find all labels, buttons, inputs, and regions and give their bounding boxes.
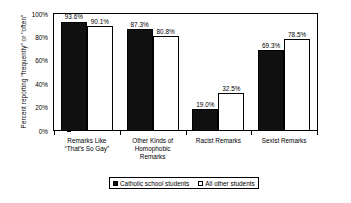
y-tick-label: 20%	[20, 104, 48, 111]
bar-value-label: 80.8%	[149, 28, 183, 35]
y-tick-label: 60%	[20, 57, 48, 64]
bars-layer	[54, 14, 317, 131]
x-category-label: Sexist Remarks	[245, 137, 323, 145]
y-tick-label: 40%	[20, 81, 48, 88]
y-tick-label: 0%	[20, 128, 48, 135]
legend-swatch-dark-icon	[113, 181, 118, 186]
bar-value-label: 69.3%	[254, 42, 288, 49]
legend-item-catholic-school-students: Catholic school students	[113, 180, 189, 187]
y-axis-ticks: 100%80%60%40%20%0%	[18, 0, 48, 203]
legend-item-all-other-students: All other students	[198, 180, 254, 187]
bar-value-label: 32.5%	[214, 85, 248, 92]
y-tick-mark	[67, 131, 71, 132]
bar-catholic-0	[61, 22, 87, 132]
legend-swatch-light-icon	[198, 181, 203, 186]
x-tick-mark	[317, 131, 318, 135]
bar-other-0	[87, 26, 113, 131]
legend-label: Catholic school students	[120, 180, 189, 187]
bar-catholic-2	[192, 109, 218, 131]
bar-other-3	[284, 39, 310, 131]
bar-value-label: 19.0%	[188, 101, 222, 108]
bar-catholic-1	[127, 29, 153, 131]
bar-chart: Percent reporting "frequently" or "often…	[0, 0, 351, 203]
bar-value-label: 78.5%	[280, 31, 314, 38]
bar-other-1	[153, 36, 179, 131]
x-tick-mark	[251, 131, 252, 135]
y-tick-label: 100%	[20, 11, 48, 18]
bar-value-label: 90.1%	[83, 18, 117, 25]
y-tick-label: 80%	[20, 34, 48, 41]
bar-value-label: 87.3%	[123, 21, 157, 28]
x-tick-mark	[186, 131, 187, 135]
x-tick-mark	[120, 131, 121, 135]
legend-label: All other students	[205, 180, 254, 187]
bar-other-2	[218, 93, 244, 131]
x-tick-mark	[54, 131, 55, 135]
bar-catholic-3	[258, 50, 284, 131]
chart-legend: Catholic school students All other stude…	[109, 177, 259, 189]
